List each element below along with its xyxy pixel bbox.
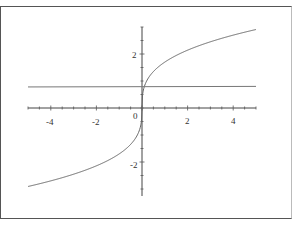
y-tick-label: -2 [130, 160, 138, 170]
x-origin-label: 0 [133, 111, 138, 121]
x-tick-label: 2 [185, 116, 190, 126]
y-tick-label: 2 [132, 50, 137, 60]
plot-area: -4 -2 0 2 4 2 -2 [0, 0, 296, 226]
x-tick-label: -2 [92, 117, 100, 127]
x-tick-label: -4 [46, 117, 54, 127]
x-tick-label: 4 [231, 116, 236, 126]
horizontal-reference-line [28, 86, 256, 87]
